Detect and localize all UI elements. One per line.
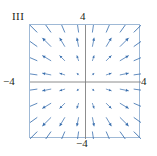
plot-frame: [29, 24, 140, 138]
y-axis-min-label: −4: [76, 138, 88, 149]
vector-field-plot: [30, 25, 141, 139]
x-axis-min-label: −4: [3, 76, 15, 87]
vector-field-figure: III 4 −4 4 −4: [0, 0, 157, 156]
y-axis-max-label: 4: [80, 11, 86, 22]
x-axis-max-label: 4: [141, 76, 147, 87]
figure-panel-label: III: [12, 11, 24, 22]
